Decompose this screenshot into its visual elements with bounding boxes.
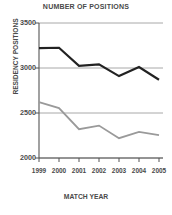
- chart-container: NUMBER OF POSITIONS RESIDENCY POSITIONS …: [0, 0, 172, 215]
- x-tick-label-2002: 2002: [88, 166, 110, 175]
- line-lower-series: [39, 102, 159, 138]
- x-tick-label-2005: 2005: [148, 166, 170, 175]
- x-tick-label-2001: 2001: [68, 166, 90, 175]
- x-axis-ticks: [39, 158, 159, 162]
- gridlines: [39, 23, 163, 158]
- x-tick-label-2003: 2003: [108, 166, 130, 175]
- x-tick-label-1999: 1999: [28, 166, 50, 175]
- line-upper-series: [39, 48, 159, 80]
- axis-lines: [35, 23, 163, 158]
- x-tick-label-2000: 2000: [48, 166, 70, 175]
- data-series: [39, 48, 159, 138]
- plot-area: [0, 0, 172, 215]
- x-axis-label: MATCH YEAR: [9, 192, 164, 201]
- x-tick-label-2004: 2004: [128, 166, 150, 175]
- x-axis-tick-labels: 1999200020012002200320042005: [0, 166, 172, 178]
